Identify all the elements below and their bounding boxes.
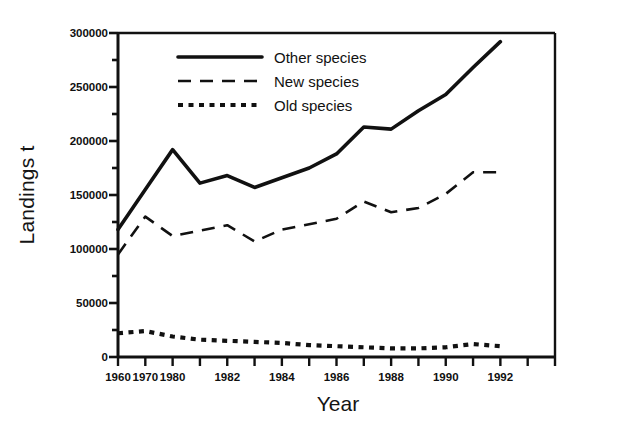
y-tick-label: 250000 [30,81,108,93]
legend-label-new-species: New species [274,73,359,90]
x-tick-label: 1990 [433,371,459,383]
x-tick-label: 1982 [214,371,240,383]
x-tick-label: 1988 [378,371,404,383]
y-tick-label: 100000 [30,243,108,255]
series-line-old-species [118,331,500,348]
y-tick-label: 0 [30,351,108,363]
x-tick-label: 1980 [160,371,186,383]
legend-label-old-species: Old species [274,97,352,114]
y-tick-label: 300000 [30,27,108,39]
x-tick-label: 1992 [488,371,514,383]
x-tick-label: 1970 [133,371,159,383]
x-tick-label: 1986 [324,371,350,383]
series-line-new-species [118,172,500,254]
y-tick-label: 50000 [30,297,108,309]
legend-sample-lines [178,57,262,105]
chart-figure: Landings t Year 050000100000150000200000… [0,0,626,434]
y-tick-label: 150000 [30,189,108,201]
x-tick-label: 1984 [269,371,295,383]
legend-label-other-species: Other species [274,49,367,66]
x-tick-label: 1960 [105,371,131,383]
series-line-other-species [118,42,500,230]
y-tick-label: 200000 [30,135,108,147]
